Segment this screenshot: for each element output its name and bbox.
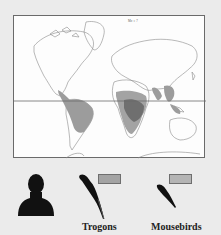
trogon-range-asia [152,85,180,114]
trogon-legend-swatch [98,174,121,184]
trogon-range-americas [58,90,93,133]
person-silhouette-icon [18,172,54,216]
mousebird-silhouette-icon [156,183,178,209]
mousebird-label: Mousebirds [151,221,202,232]
world-map: Mo ≡ 7 [13,15,205,158]
world-map-svg [14,16,206,159]
greenland-outline [84,22,104,51]
australia-outline [169,118,196,140]
mousebird-legend-swatch [169,174,192,184]
eurasia-outline [111,39,197,90]
north-america-outline [34,31,94,96]
trogon-label: Trogons [82,221,117,232]
